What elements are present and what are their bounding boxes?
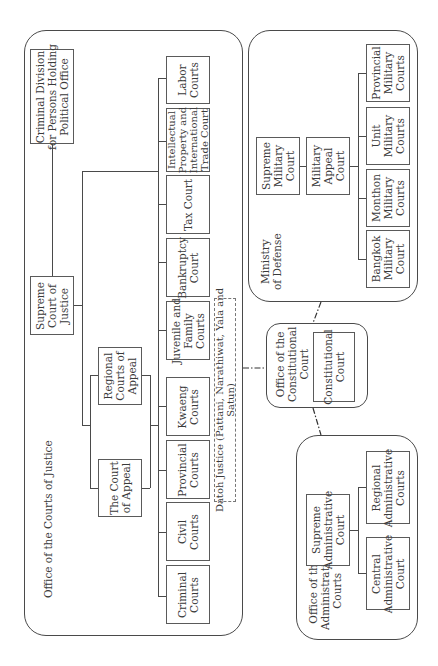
- label-line: Trade Court: [199, 107, 210, 173]
- supreme-military-court-box: Supreme Military Court: [256, 137, 300, 195]
- connector: [90, 488, 98, 489]
- bankruptcy-court-box: Bankruptcy Court: [166, 238, 210, 297]
- ip-trade-court-box: Intellectual Property and International …: [166, 108, 210, 172]
- label-line: Monthon: [370, 174, 382, 222]
- connector: [142, 375, 150, 376]
- supreme-administrative-court-box: Supreme Administrative Court: [306, 494, 350, 566]
- label-line: Court: [284, 142, 296, 190]
- connector: [150, 375, 151, 488]
- label-line: Tax Court: [182, 178, 194, 230]
- juvenile-family-courts-box: Juvenile and Family Courts: [166, 301, 210, 360]
- connector: [150, 425, 158, 426]
- bangkok-military-court-box: Bangkok Military Court: [366, 230, 410, 288]
- connector: [358, 259, 366, 260]
- label-line: Ministry: [259, 233, 271, 290]
- connector: [358, 487, 359, 573]
- connector: [358, 198, 366, 199]
- connector: [90, 375, 98, 376]
- label-line: Bangkok: [370, 236, 382, 283]
- label-line: Courts: [394, 46, 406, 99]
- connector: [158, 532, 166, 533]
- court-structure-diagram: Office of the Courts of Justice Criminal…: [0, 0, 438, 666]
- regional-administrative-courts-box: Regional Administrative Courts: [366, 451, 410, 524]
- label-line: Courts of: [114, 351, 126, 400]
- connector: [358, 73, 366, 74]
- label-line: The Court: [108, 461, 120, 515]
- criminal-division-box: Criminal Division for Persons Holding Po…: [30, 49, 74, 144]
- provincial-courts-box: Provincial Courts: [166, 440, 210, 499]
- label-line: Office of the: [274, 327, 286, 402]
- connector: [358, 573, 366, 574]
- connector: [158, 78, 159, 596]
- regional-courts-of-appeal-box: Regional Courts of Appeal: [98, 347, 142, 405]
- label-line: Supreme: [310, 491, 322, 569]
- connector: [142, 488, 150, 489]
- label-line: Courts: [188, 62, 200, 98]
- criminal-courts-box: Criminal Courts: [166, 565, 210, 624]
- label-line: Administrative: [382, 534, 394, 612]
- label-line: International: [188, 107, 199, 173]
- label-line: Military: [310, 145, 322, 187]
- label-line: Datoh Justice (Pattani, Narathiwat, Yala…: [214, 288, 225, 512]
- label-line: Constitutional: [322, 329, 334, 404]
- label-line: Courts: [394, 115, 406, 157]
- label-line: for Persons Holding: [46, 44, 58, 150]
- label-line: Court of: [46, 281, 58, 329]
- label-line: Family: [182, 298, 194, 364]
- label-line: Court: [394, 534, 406, 612]
- connector: [358, 487, 366, 488]
- label-line: Courts: [188, 385, 200, 428]
- label-line: of Defense: [271, 233, 283, 290]
- label-line: Courts: [394, 174, 406, 222]
- label-line: Military: [382, 174, 394, 222]
- datoh-justice-region: Datoh Justice (Pattani, Narathiwat, Yala…: [214, 298, 236, 502]
- constitutional-court-box: Constitutional Court: [313, 332, 355, 402]
- label-line: Bankruptcy: [176, 237, 188, 299]
- label-line: Civil: [176, 514, 188, 550]
- connector: [52, 144, 53, 276]
- connector: [358, 136, 366, 137]
- connector: [158, 78, 166, 79]
- label-line: Court: [188, 237, 200, 299]
- civil-courts-box: Civil Courts: [166, 502, 210, 561]
- monthon-military-courts-box: Monthon Military Courts: [366, 169, 410, 227]
- courts-of-justice-label-text: Office of the Courts of Justice: [42, 440, 54, 598]
- provincial-military-courts-box: Provincial Military Courts: [366, 44, 410, 102]
- label-line: Regional: [102, 351, 114, 400]
- label-line: Satun): [225, 288, 236, 512]
- connector: [82, 171, 83, 425]
- connector: [158, 141, 166, 142]
- label-line: Court: [334, 329, 346, 404]
- connector: [74, 305, 82, 306]
- connector: [82, 425, 90, 426]
- label-line: Supreme: [34, 281, 46, 329]
- connector: [300, 166, 306, 167]
- connector: [82, 171, 158, 172]
- connector: [350, 166, 358, 167]
- label-line: Political Office: [58, 44, 70, 150]
- label-line: Court: [334, 145, 346, 187]
- label-line: Labor: [176, 62, 188, 98]
- connector: [158, 262, 166, 263]
- connector: [350, 530, 358, 531]
- label-line: Courts: [194, 298, 206, 364]
- label-line: Military: [382, 115, 394, 157]
- courts-of-justice-label: Office of the Courts of Justice: [42, 440, 54, 598]
- label-line: of Appeal: [120, 461, 132, 515]
- label-line: Central: [370, 534, 382, 612]
- label-line: Criminal Division: [34, 44, 46, 150]
- label-line: Regional: [370, 448, 382, 526]
- label-line: Unit: [370, 115, 382, 157]
- label-line: Courts: [188, 443, 200, 496]
- label-line: Military: [382, 46, 394, 99]
- label-line: Intellectual: [166, 107, 177, 173]
- label-line: Courts: [394, 448, 406, 526]
- label-line: Provincial: [176, 443, 188, 496]
- label-line: Justice: [58, 281, 70, 329]
- label-line: Provincial: [370, 46, 382, 99]
- label-line: Administrative: [322, 491, 334, 569]
- kwaeng-courts-box: Kwaeng Courts: [166, 377, 210, 436]
- label-line: Military: [272, 142, 284, 190]
- connector: [158, 204, 166, 205]
- supreme-court-of-justice-box: Supreme Court of Justice: [30, 276, 74, 335]
